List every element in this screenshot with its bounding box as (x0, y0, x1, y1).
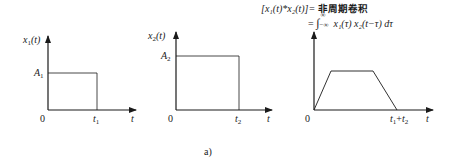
panel-convolution-t-axis-label: t (426, 114, 429, 124)
panel-x2 (176, 32, 272, 110)
panel-x2-amplitude-label: A2 (161, 51, 171, 63)
panel-x2-t-axis-label: t (267, 114, 270, 124)
panel-x1-y-label: x1(t) (23, 35, 40, 47)
panel-x1-rectangle-pulse (48, 73, 97, 110)
panel-convolution-trapezoid (314, 71, 397, 110)
convolution-notation: [x₁(t)*x₂(t)]= (261, 3, 315, 14)
panel-x1-origin-label: 0 (40, 114, 45, 124)
panel-convolution (314, 32, 433, 110)
panel-x1-amplitude-label: A1 (34, 68, 44, 80)
figure-caption: a) (204, 146, 212, 157)
panel-x1 (48, 36, 136, 110)
integrand: x₁(τ) x₂(t−τ) dτ (333, 18, 392, 29)
convolution-formula-line2: = ∫∞−∞x₁(τ) x₂(t−τ) dτ (308, 17, 393, 29)
panel-x2-origin-label: 0 (168, 114, 173, 124)
convolution-formula-line1: [x₁(t)*x₂(t)]= 非周期卷积 (261, 4, 368, 14)
panel-x1-t-axis-label: t (131, 114, 134, 124)
integral-upper-limit: ∞ (320, 12, 325, 19)
panel-x2-y-label: x2(t) (148, 31, 165, 43)
panel-x1-t1-label: t1 (93, 114, 99, 126)
panel-x2-rectangle-pulse (176, 56, 239, 110)
panel-x2-t2-label: t2 (235, 114, 241, 126)
integral-lower-limit: −∞ (319, 22, 328, 29)
panel-convolution-t1-plus-t2-label: t1+t2 (390, 114, 408, 126)
panel-convolution-origin-label: 0 (305, 114, 310, 124)
